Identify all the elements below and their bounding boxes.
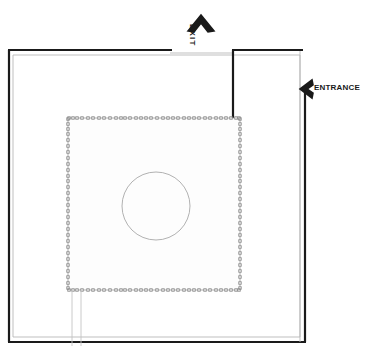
courtyard-outline bbox=[68, 118, 240, 290]
exit-label: EXIT bbox=[188, 24, 196, 47]
chevron-left-icon bbox=[300, 80, 313, 98]
courtyard-area bbox=[68, 118, 240, 290]
lower-guide-lines bbox=[72, 290, 81, 346]
floor-plan-drawing bbox=[0, 0, 366, 356]
floor-plan-canvas: EXIT ENTRANCE bbox=[0, 0, 366, 356]
entrance-label: ENTRANCE bbox=[314, 84, 360, 92]
